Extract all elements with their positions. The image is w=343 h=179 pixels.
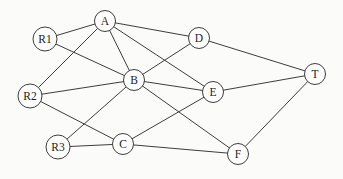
- edge-R2-C: [30, 96, 123, 144]
- node-R2: R2: [18, 84, 42, 108]
- edge-B-D: [134, 38, 199, 80]
- node-B: B: [124, 70, 145, 91]
- edge-B-E: [134, 80, 213, 92]
- edge-C-E: [123, 92, 213, 144]
- node-C: C: [113, 134, 134, 155]
- edge-R1-B: [45, 39, 134, 80]
- edge-A-D: [105, 21, 199, 38]
- node-F: F: [228, 144, 249, 165]
- node-R1-label: R1: [38, 33, 52, 45]
- node-D-label: D: [195, 32, 203, 44]
- node-R3-label: R3: [51, 141, 65, 153]
- node-E-label: E: [209, 86, 216, 98]
- edge-D-T: [199, 38, 315, 74]
- graph-svg: AR1DTBER2CR3F: [0, 0, 343, 179]
- node-E: E: [203, 82, 224, 103]
- node-T-label: T: [311, 68, 318, 80]
- node-R2-label: R2: [23, 90, 37, 102]
- node-R1: R1: [33, 27, 57, 51]
- node-B-label: B: [130, 74, 138, 86]
- node-F-label: F: [235, 148, 241, 160]
- graph-diagram: AR1DTBER2CR3F: [0, 0, 343, 179]
- node-A: A: [95, 11, 116, 32]
- edge-C-F: [123, 144, 238, 154]
- node-A-label: A: [101, 15, 110, 27]
- node-R3: R3: [46, 135, 70, 159]
- node-C-label: C: [119, 138, 127, 150]
- node-T: T: [305, 64, 326, 85]
- node-D: D: [189, 28, 210, 49]
